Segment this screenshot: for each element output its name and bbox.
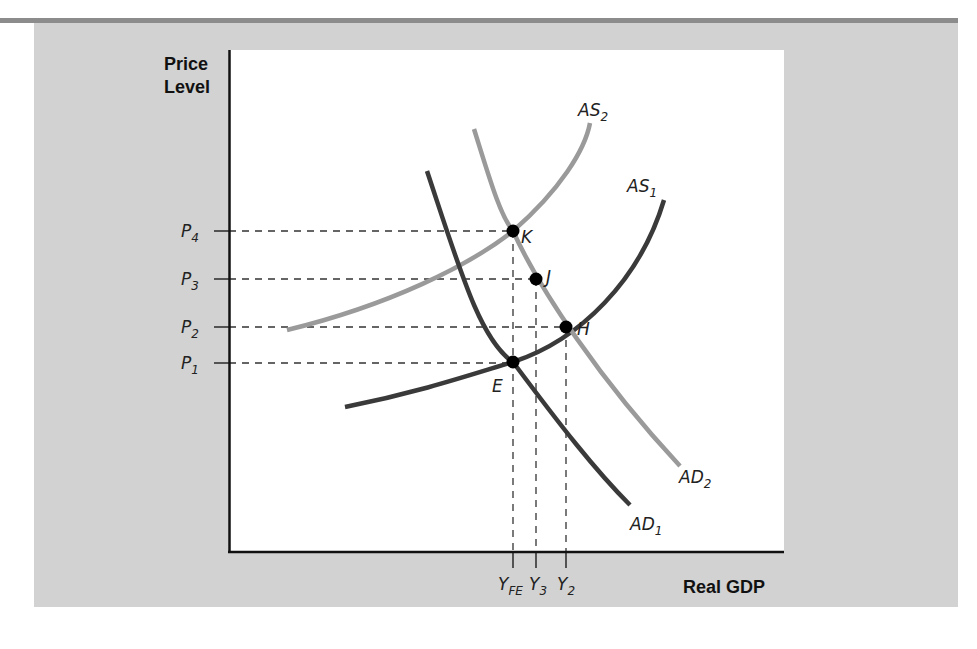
y-tick-label-P1: P1 (181, 353, 199, 377)
point-e (507, 356, 520, 369)
x-axis-title: Real GDP (683, 577, 765, 597)
point-label-e: E (492, 376, 503, 396)
x-tick-label-Y2: Y2 (557, 574, 575, 598)
x-tick-label-YFE: YFE (498, 574, 523, 598)
point-label-k: K (521, 227, 534, 247)
y-tick-label-P4: P4 (181, 221, 199, 245)
point-h (560, 321, 573, 334)
y-tick-label-P3: P3 (181, 269, 199, 293)
as-ad-chart: P4P3P2P1YFEY3Y2 EHJK AS1AS2AD1AD2 Price … (0, 0, 977, 649)
point-label-h: H (577, 319, 590, 339)
point-j (530, 273, 543, 286)
y-axis-title-line1: Price (164, 54, 208, 74)
x-tick-label-Y3: Y3 (529, 574, 547, 598)
y-tick-label-P2: P2 (181, 317, 199, 341)
point-k (507, 225, 520, 238)
y-axis-title-line2: Level (164, 77, 210, 97)
